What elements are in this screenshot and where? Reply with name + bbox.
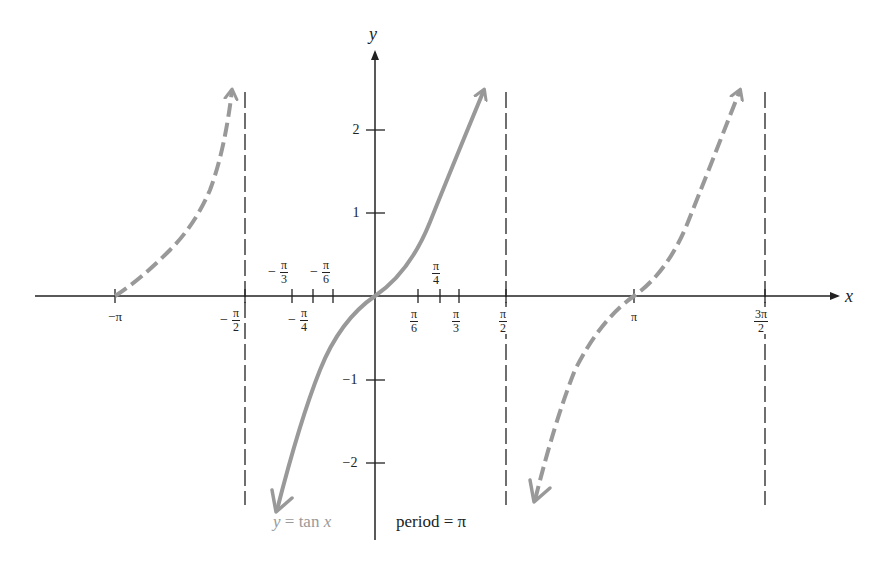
x-tick-label-pi: π — [627, 311, 641, 323]
principal-branch-curve — [277, 90, 484, 510]
y-axis-label: y — [369, 24, 377, 45]
minus-sign: − — [288, 313, 296, 327]
asymptotes — [245, 92, 765, 505]
x-tick-label-pi-3: π3 — [452, 307, 460, 334]
x-tick-label-pi-4: π4 — [432, 259, 440, 286]
tangent-chart — [0, 0, 883, 574]
left-branch-curve — [115, 90, 232, 296]
right-branch-curve — [535, 90, 740, 500]
minus-sign: − — [220, 313, 228, 327]
lower-arrowheads — [272, 480, 550, 512]
minus-sign: − — [310, 265, 318, 279]
equation-label: y = tan x — [273, 512, 331, 532]
x-tick-label-3pi-2: 3π2 — [754, 307, 768, 334]
period-label: period = π — [396, 512, 466, 532]
y-tick-label-neg2: −2 — [338, 456, 362, 470]
x-tick-label-neg-pi-3: − π3 — [268, 259, 288, 285]
x-tick-label-neg-pi-6: − π6 — [310, 259, 330, 285]
equation-y: y — [273, 512, 281, 531]
minus-sign: − — [268, 265, 276, 279]
x-axis-label: x — [845, 286, 853, 307]
x-tick-label-neg-pi: −π — [100, 310, 130, 323]
y-tick-label-2: 2 — [350, 123, 362, 137]
tan-curves — [115, 90, 740, 510]
equation-x: x — [324, 512, 332, 531]
y-tick-label-neg1: −1 — [338, 373, 362, 387]
y-tick-label-1: 1 — [350, 206, 362, 220]
arrow-down-icon — [530, 480, 550, 502]
x-tick-label-pi-2: π2 — [499, 307, 507, 334]
x-tick-label-neg-pi-2: − π2 — [220, 307, 240, 333]
x-tick-label-neg-pi-4: − π4 — [288, 307, 308, 333]
equation-fn: tan — [299, 512, 324, 531]
equation-equals: = — [281, 512, 299, 531]
x-tick-label-pi-6: π6 — [410, 307, 418, 334]
